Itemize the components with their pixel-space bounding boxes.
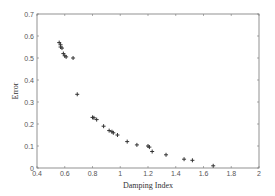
x-axis-label: Damping Index (123, 181, 173, 190)
x-tick-label: 1 (118, 170, 122, 177)
y-axis-label: Error (11, 82, 20, 99)
y-tick-label: 0.3 (24, 99, 34, 106)
y-tick-label: 0.7 (24, 11, 34, 18)
x-tick-label: 2 (257, 170, 261, 177)
y-tick-label: 0 (30, 165, 34, 172)
x-tick-label: 1.2 (143, 170, 153, 177)
y-tick-label: 0.2 (24, 121, 34, 128)
x-tick-label: 1.6 (199, 170, 209, 177)
y-tick-label: 0.5 (24, 55, 34, 62)
y-tick-label: 0.4 (24, 77, 34, 84)
x-tick-label: 1.8 (226, 170, 236, 177)
x-tick-label: 0.8 (88, 170, 98, 177)
y-tick-label: 0.1 (24, 143, 34, 150)
x-tick-label: 1.4 (171, 170, 181, 177)
scatter-chart: 0.40.60.811.21.41.61.8200.10.20.30.40.50… (0, 0, 275, 196)
x-tick-label: 0.6 (60, 170, 70, 177)
y-tick-label: 0.6 (24, 33, 34, 40)
